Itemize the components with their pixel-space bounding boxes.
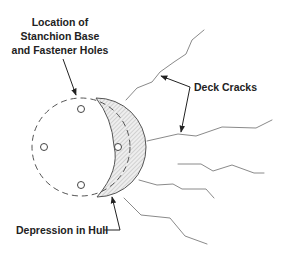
deck-crack-3 — [178, 164, 264, 173]
fastener-hole-left — [41, 144, 48, 151]
deck-crack-1 — [126, 30, 204, 100]
hull-damage-diagram: Location of Stanchion Base and Fastener … — [0, 0, 284, 256]
fastener-hole-right — [115, 144, 122, 151]
deck-crack-4 — [139, 180, 214, 198]
stanchion-label-line-2: Stanchion Base — [21, 30, 100, 42]
deck-cracks-label: Deck Cracks — [194, 81, 257, 93]
fastener-hole-bottom — [78, 182, 85, 189]
stanchion-label-line-1: Location of — [32, 16, 89, 28]
depression-label: Depression in Hull — [16, 224, 108, 236]
deck-cracks-leader-arrow-top — [161, 76, 190, 87]
stanchion-label: Location of Stanchion Base and Fastener … — [12, 16, 109, 56]
deck-crack-2 — [147, 120, 272, 141]
deck-cracks-leader-arrow-bottom — [181, 87, 190, 132]
stanchion-label-line-3: and Fastener Holes — [12, 44, 109, 56]
fastener-hole-top — [78, 106, 85, 113]
deck-cracks — [124, 30, 272, 244]
stanchion-leader-arrow — [63, 59, 76, 95]
deck-crack-5 — [124, 198, 207, 244]
deck-cracks-leader — [161, 76, 190, 132]
